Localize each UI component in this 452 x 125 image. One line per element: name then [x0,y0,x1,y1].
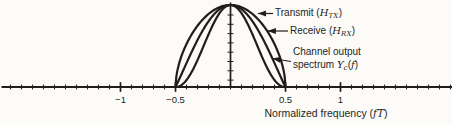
transmit-subscript: TX [328,12,338,20]
x-tick-label: −0.5 [166,94,185,105]
receive-subscript: RX [341,30,352,38]
receive-curve-label: Receive (HRX) [290,25,355,36]
x-axis-title-text: Normalized frequency ( [265,107,374,119]
receive-label-close: ) [352,25,355,36]
x-tick-label: 0.5 [279,94,292,105]
transmit-label-close: ) [339,7,342,18]
x-axis-title-math: fT [373,107,384,119]
x-tick-label: 1 [338,94,343,105]
transmit-label-text: Transmit ( [275,7,320,18]
channel-output-curve-label: Channel output spectrum Yc(f) [293,45,361,71]
x-axis-title-close: ) [384,107,388,119]
spectrum-figure: Transmit (HTX) Receive (HRX) Channel out… [0,0,452,125]
receive-symbol: H [332,25,341,36]
channel-label-line2: spectrum Yc(f) [293,58,361,71]
receive-label-text: Receive ( [290,25,332,36]
transmit-curve-label: Transmit (HTX) [275,7,342,18]
channel-symbol: Y [337,59,344,70]
channel-close-paren: ) [355,59,358,70]
x-tick-label: −1 [115,94,126,105]
channel-label-text: spectrum [293,59,337,70]
channel-label-line1: Channel output [293,45,361,58]
x-axis-title: Normalized frequency (fT) [265,107,388,119]
